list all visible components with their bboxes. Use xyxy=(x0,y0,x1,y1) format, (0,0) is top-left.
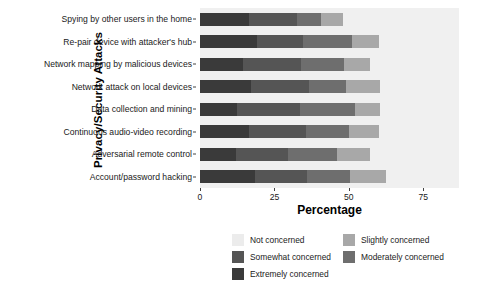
legend-item[interactable]: Somewhat concerned xyxy=(232,251,343,263)
bar-segment xyxy=(344,58,369,71)
legend-row: Somewhat concernedModerately concerned xyxy=(232,251,482,263)
x-axis-tick-label: 25 xyxy=(270,192,280,202)
legend-label: Extremely concerned xyxy=(250,269,329,279)
y-axis-tick-mark xyxy=(193,109,196,110)
bar-segment xyxy=(306,125,349,138)
bar-segment xyxy=(200,125,249,138)
y-axis-tick-mark xyxy=(193,86,196,87)
bar-segment xyxy=(243,58,301,71)
bar-segment xyxy=(337,148,370,161)
x-axis-tick-label: 75 xyxy=(418,192,428,202)
bar-row xyxy=(200,58,370,71)
bar-row xyxy=(200,35,379,48)
bar-rows xyxy=(200,8,459,188)
legend-label: Somewhat concerned xyxy=(250,252,331,262)
chart-legend: Not concernedSlightly concernedSomewhat … xyxy=(232,234,482,285)
bar-segment xyxy=(251,80,309,93)
legend-swatch xyxy=(343,251,355,263)
x-axis-tick-mark xyxy=(423,188,424,191)
bar-segment xyxy=(307,170,350,183)
y-axis-tick-label: Account/password hacking xyxy=(90,172,192,182)
bar-segment xyxy=(352,35,379,48)
bar-segment xyxy=(200,13,249,26)
y-axis-tick-mark xyxy=(193,64,196,65)
legend-item[interactable]: Slightly concerned xyxy=(343,234,429,246)
legend-label: Moderately concerned xyxy=(361,252,444,262)
x-axis-tick-label: 50 xyxy=(344,192,354,202)
y-axis-tick-mark xyxy=(193,131,196,132)
bar-row xyxy=(200,103,380,116)
legend-swatch xyxy=(232,251,244,263)
bar-segment xyxy=(200,35,257,48)
bar-segment xyxy=(200,103,237,116)
bar-segment xyxy=(300,103,355,116)
y-axis-tick-label: Spying by other users in the home xyxy=(62,14,192,24)
bar-segment xyxy=(321,13,343,26)
bar-segment xyxy=(236,148,288,161)
stacked-bar-chart: Privacy/Security Attacks Spying by other… xyxy=(0,0,484,304)
bar-segment xyxy=(297,13,321,26)
y-axis-tick-label: Data collection and mining xyxy=(91,104,192,114)
bar-segment xyxy=(309,80,346,93)
y-axis-tick-label: Network mapping by malicious devices xyxy=(44,59,192,69)
legend-row: Extremely concerned xyxy=(232,268,482,280)
x-axis-tick-mark xyxy=(274,188,275,191)
legend-item[interactable]: Moderately concerned xyxy=(343,251,444,263)
y-axis-tick-label: Continuous audio-video recording xyxy=(63,127,192,137)
bar-segment xyxy=(350,170,386,183)
bar-segment xyxy=(355,103,380,116)
bar-row xyxy=(200,80,380,93)
y-axis-tick-mark xyxy=(193,176,196,177)
bar-segment xyxy=(257,35,303,48)
bar-segment xyxy=(237,103,300,116)
legend-swatch xyxy=(343,234,355,246)
y-axis-tick-labels: Spying by other users in the homeRe-pair… xyxy=(18,8,196,188)
bar-row xyxy=(200,125,379,138)
bar-segment xyxy=(249,125,306,138)
bar-segment xyxy=(200,80,251,93)
bar-segment xyxy=(301,58,344,71)
x-axis-tick-mark xyxy=(349,188,350,191)
x-axis-title: Percentage xyxy=(200,203,459,217)
bar-row xyxy=(200,170,386,183)
x-axis-ticks: 0255075 xyxy=(200,188,459,204)
bar-segment xyxy=(346,80,380,93)
legend-label: Slightly concerned xyxy=(361,235,429,245)
bar-segment xyxy=(200,58,243,71)
bar-segment xyxy=(349,125,379,138)
y-axis-tick-label: Network attack on local devices xyxy=(72,82,192,92)
y-axis-tick-mark xyxy=(193,154,196,155)
bar-segment xyxy=(255,170,307,183)
bar-row xyxy=(200,13,343,26)
bar-row xyxy=(200,148,370,161)
legend-label: Not concerned xyxy=(250,235,304,245)
legend-item[interactable]: Extremely concerned xyxy=(232,268,343,280)
x-axis-tick-label: 0 xyxy=(198,192,203,202)
legend-item[interactable]: Not concerned xyxy=(232,234,343,246)
x-axis-tick-mark xyxy=(200,188,201,191)
y-axis-tick-mark xyxy=(193,41,196,42)
y-axis-tick-label: Adversarial remote control xyxy=(92,149,192,159)
legend-swatch xyxy=(232,268,244,280)
y-axis-tick-label: Re-pair device with attacker's hub xyxy=(63,37,192,47)
bar-segment xyxy=(200,148,236,161)
legend-swatch xyxy=(232,234,244,246)
bar-segment xyxy=(303,35,352,48)
bar-segment xyxy=(200,170,255,183)
legend-row: Not concernedSlightly concerned xyxy=(232,234,482,246)
bar-segment xyxy=(288,148,337,161)
y-axis-tick-mark xyxy=(193,19,196,20)
bar-segment xyxy=(249,13,297,26)
